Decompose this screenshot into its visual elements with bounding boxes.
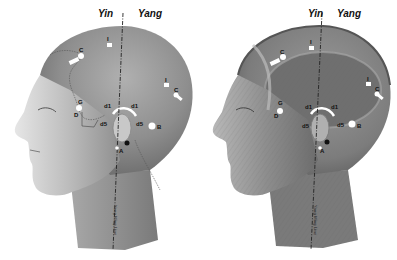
label-d5-front: d5 [302,123,309,129]
label-d1-back: d1 [131,103,138,109]
yang-label: Yang [337,8,361,19]
label-I-back: I [367,76,369,82]
label-G: G [78,99,83,105]
label-d1-back: d1 [331,104,338,110]
head-muscle-panel: Yin Yang I C I C G D d1 d1 d5 d5 B A Yan… [198,0,397,260]
label-C-back: C [375,86,379,92]
yin-label: Yin [98,8,113,19]
head-muscle-illustration [198,0,397,260]
point-B [349,121,356,128]
ear-shape [113,114,131,142]
label-C-back: C [174,87,178,93]
label-d5-back: d5 [136,121,143,127]
label-d1-front: d1 [305,104,312,110]
label-G: G [278,100,283,106]
label-I-top: I [310,39,312,45]
point-C-front [78,53,84,59]
label-D: D [274,113,278,119]
label-d1-front: d1 [104,103,111,109]
label-I-back: I [165,77,167,83]
point-I-top [107,43,112,47]
label-I-top: I [107,36,109,42]
yin-label: Yin [308,8,323,19]
label-d5-back: d5 [337,122,344,128]
yang-label: Yang [138,8,162,19]
head-skin-illustration [0,0,199,260]
meridian-caption: Yang Ming Line [113,205,118,235]
ear-shape [311,114,329,142]
label-D: D [74,112,78,118]
label-B: B [157,124,161,130]
point-I-top [309,46,314,50]
point-G [76,105,82,111]
point-I-back [366,82,371,86]
label-C-front: C [280,49,284,55]
point-dark-mastoid [325,140,330,145]
point-I-back [164,83,169,87]
head-skin-panel: Yin Yang I C I C G D d1 d1 d5 d5 B A Yan… [0,0,199,260]
label-A: A [320,148,324,154]
label-C-front: C [79,47,83,53]
meridian-caption: Yang Ming Line [313,205,318,235]
label-A: A [119,148,123,154]
label-d5-front: d5 [100,121,107,127]
point-B [149,123,156,130]
point-dark-mastoid [125,141,130,146]
label-B: B [357,123,361,129]
